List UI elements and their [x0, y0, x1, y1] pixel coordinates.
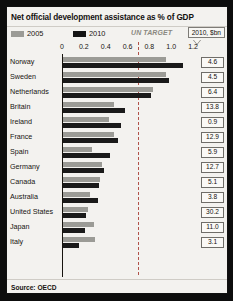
bar-2010	[63, 123, 121, 128]
category-label: Australia	[10, 193, 38, 200]
bar-2005	[63, 192, 90, 197]
category-label: France	[10, 133, 32, 140]
bar-2010	[63, 108, 125, 113]
chart-row: Britain13.8	[7, 101, 227, 116]
chart-row: Norway4.6	[7, 56, 227, 71]
bar-2010	[63, 93, 151, 98]
bar-2010	[63, 228, 85, 233]
chart-row: Italy3.1	[7, 236, 227, 251]
category-label: Japan	[10, 223, 30, 230]
screenshot-frame: Net official development assistance as %…	[0, 0, 233, 301]
legend-item-un-target: UN TARGET	[131, 29, 172, 36]
value-box: 3.8	[201, 192, 224, 203]
bar-2010	[63, 63, 183, 68]
value-box: 6.4	[201, 87, 224, 98]
x-tick-label: 0.8	[144, 43, 154, 50]
bar-2010	[63, 138, 118, 143]
chart-row: France12.9	[7, 131, 227, 146]
chart-row: Japan11.0	[7, 221, 227, 236]
x-tick-label: 0.4	[101, 43, 111, 50]
bar-2005	[63, 87, 153, 92]
chart-row: Netherlands6.4	[7, 86, 227, 101]
x-tick-label: 0	[60, 43, 64, 50]
chart-row: Ireland0.9	[7, 116, 227, 131]
value-box: 11.0	[201, 222, 224, 233]
chart-row: Canada5.1	[7, 176, 227, 191]
value-box: 0.9	[201, 117, 224, 128]
bar-2010	[63, 78, 169, 83]
value-box: 13.8	[201, 102, 224, 113]
chart-row: Germany12.7	[7, 161, 227, 176]
bar-2005	[63, 147, 92, 152]
bar-2005	[63, 207, 88, 212]
category-label: Ireland	[10, 118, 32, 125]
bar-2005	[63, 72, 166, 77]
chart-row: Australia3.8	[7, 191, 227, 206]
value-box: 4.6	[201, 57, 224, 68]
category-label: Spain	[10, 148, 28, 155]
source-note: Source: OECD	[11, 284, 56, 291]
bar-2005	[63, 237, 95, 242]
category-label: Italy	[10, 238, 23, 245]
legend-label-2005: 2005	[27, 29, 43, 38]
category-label: Norway	[10, 58, 34, 65]
chart-card: Net official development assistance as %…	[6, 6, 228, 294]
bar-2005	[63, 102, 114, 107]
bar-2010	[63, 198, 98, 203]
bar-2010	[63, 183, 99, 188]
page-title: Net official development assistance as %…	[11, 13, 194, 22]
x-tick-label: 1.0	[166, 43, 176, 50]
chart-row: United States30.2	[7, 206, 227, 221]
value-box: 3.1	[201, 237, 224, 248]
category-label: Britain	[10, 103, 30, 110]
legend-label-2010: 2010	[89, 29, 105, 38]
value-box: 12.7	[201, 162, 224, 173]
x-tick-label: 0.2	[79, 43, 89, 50]
bar-2010	[63, 213, 86, 218]
legend-swatch-2010	[73, 31, 86, 37]
category-label: United States	[10, 208, 53, 215]
category-label: Sweden	[10, 73, 36, 80]
bar-2005	[63, 57, 166, 62]
source-divider	[7, 279, 227, 280]
legend-swatch-2005	[11, 31, 24, 37]
value-box: 12.9	[201, 132, 224, 143]
x-axis-tick-labels: 00.20.40.60.81.01.2	[7, 43, 227, 54]
legend-item-2010: 2010	[73, 29, 105, 38]
value-box: 30.2	[201, 207, 224, 218]
category-label: Canada	[10, 178, 35, 185]
value-column-header: 2010, $bn	[188, 27, 225, 38]
x-tick-label: 0.6	[123, 43, 133, 50]
value-box: 5.9	[201, 147, 224, 158]
bar-2005	[63, 117, 109, 122]
plot-area: Norway4.6Sweden4.5Netherlands6.4Britain1…	[7, 54, 227, 277]
value-box: 5.1	[201, 177, 224, 188]
legend-item-2005: 2005	[11, 29, 43, 38]
bar-2005	[63, 222, 94, 227]
bar-2010	[63, 168, 104, 173]
x-tick-label: 1.2	[188, 43, 198, 50]
bar-2005	[63, 132, 114, 137]
category-label: Netherlands	[10, 88, 49, 95]
bar-2010	[63, 153, 110, 158]
value-box: 4.5	[201, 72, 224, 83]
bar-2005	[63, 162, 102, 167]
chart-row: Spain5.9	[7, 146, 227, 161]
bar-2010	[63, 243, 79, 248]
category-label: Germany	[10, 163, 40, 170]
bar-2005	[63, 177, 100, 182]
chart-row: Sweden4.5	[7, 71, 227, 86]
